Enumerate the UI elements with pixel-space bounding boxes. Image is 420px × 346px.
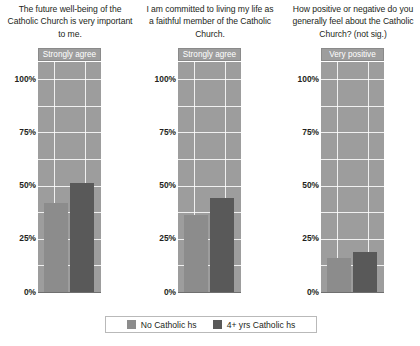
y-axis: 0%25%50%75%100% [283,0,319,300]
y-axis-tick-label: 100% [2,75,36,84]
gridline-horizontal [321,159,384,160]
y-axis-tick-label: 25% [2,234,36,243]
y-axis-tick [173,239,176,240]
gridline-horizontal [178,106,241,107]
gridline-horizontal [321,132,384,133]
chart-panel-1: I am committed to living my life as a fa… [140,0,280,300]
legend-swatch [213,320,222,329]
plot-area [178,62,241,292]
gridline-horizontal [38,132,101,133]
y-axis-tick-label: 25% [142,234,176,243]
panel-strip-label: Strongly agree [178,48,241,61]
y-axis-tick [316,186,319,187]
y-axis-tick [316,239,319,240]
y-axis-tick-label: 50% [285,181,319,190]
gridline-horizontal [321,186,384,187]
legend-item: No Catholic hs [127,320,197,330]
y-axis: 0%25%50%75%100% [0,0,36,300]
chart-legend: No Catholic hs4+ yrs Catholic hs [105,316,317,333]
bar [184,215,208,292]
y-axis-tick [173,79,176,80]
y-axis-tick [33,292,36,293]
y-axis-tick [173,292,176,293]
x-axis-line [38,292,101,293]
panel-strip-label: Strongly agree [38,48,101,61]
gridline-horizontal [321,239,384,240]
y-axis-tick [33,186,36,187]
x-axis-line [178,292,241,293]
bar [353,252,377,292]
y-axis-tick [33,132,36,133]
y-axis-tick-label: 50% [142,181,176,190]
plot-area [321,62,384,292]
y-axis-tick-label: 75% [285,128,319,137]
gridline-horizontal [321,79,384,80]
panel-strip-label: Very positive [321,48,384,61]
gridline-horizontal [321,106,384,107]
bar [44,203,68,292]
gridline-horizontal [38,159,101,160]
y-axis-tick [316,132,319,133]
x-axis-line [321,292,384,293]
gridline-horizontal [178,79,241,80]
chart-figure: The future well-being of the Catholic Ch… [0,0,420,346]
y-axis-tick-label: 0% [285,288,319,297]
plot-area [38,62,101,292]
y-axis-tick [173,132,176,133]
bar [70,183,94,292]
y-axis-tick-label: 75% [2,128,36,137]
y-axis-tick-label: 0% [2,288,36,297]
chart-panel-0: The future well-being of the Catholic Ch… [0,0,140,300]
y-axis-tick [316,79,319,80]
y-axis-tick [173,186,176,187]
gridline-horizontal [178,186,241,187]
y-axis-tick-label: 50% [2,181,36,190]
bar [327,258,351,292]
legend-item: 4+ yrs Catholic hs [213,320,296,330]
gridline-horizontal [321,212,384,213]
legend-label: No Catholic hs [141,320,197,330]
legend-label: 4+ yrs Catholic hs [227,320,296,330]
gridline-horizontal [178,159,241,160]
legend-swatch [127,320,136,329]
bar [210,198,234,292]
y-axis: 0%25%50%75%100% [140,0,176,300]
gridline-horizontal [38,79,101,80]
y-axis-tick [33,79,36,80]
y-axis-tick-label: 100% [142,75,176,84]
y-axis-tick [316,292,319,293]
chart-panel-2: How positive or negative do you generall… [283,0,420,300]
y-axis-tick-label: 75% [142,128,176,137]
gridline-horizontal [178,132,241,133]
y-axis-tick-label: 100% [285,75,319,84]
y-axis-tick-label: 0% [142,288,176,297]
gridline-horizontal [38,106,101,107]
y-axis-tick [33,239,36,240]
y-axis-tick-label: 25% [285,234,319,243]
